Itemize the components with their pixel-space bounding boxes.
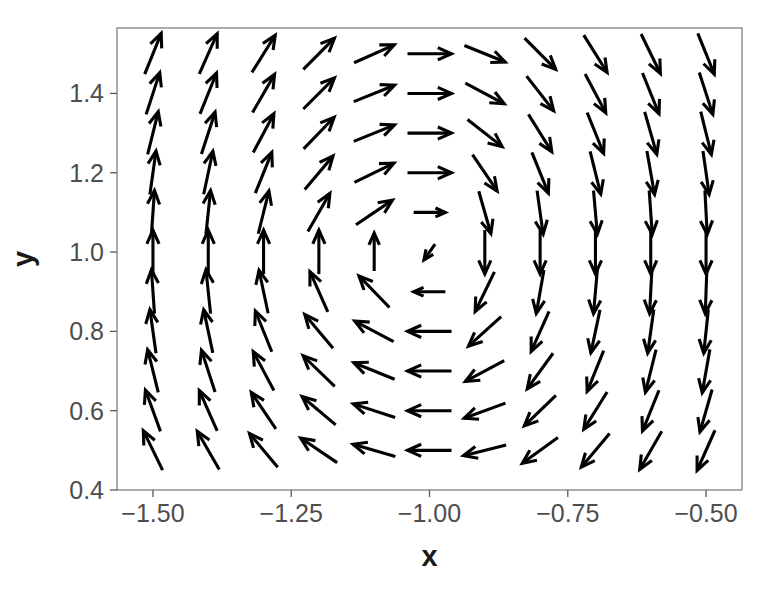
y-tick-label: 1.4 (69, 79, 104, 107)
y-tick-label: 0.6 (69, 397, 104, 425)
x-tick-label: −1.00 (398, 499, 461, 527)
y-axis-title: y (7, 251, 39, 267)
x-tick-label: −1.50 (121, 499, 184, 527)
x-tick-label: −1.25 (260, 499, 323, 527)
x-tick-label: −0.75 (536, 499, 599, 527)
arrow-shaft (705, 270, 707, 314)
y-axis: 0.40.60.81.01.21.4 (69, 79, 117, 504)
y-tick-label: 1.2 (69, 159, 104, 187)
y-tick-label: 0.8 (69, 317, 104, 345)
x-tick-label: −0.50 (674, 499, 737, 527)
x-axis: −1.50−1.25−1.00−0.75−0.50 (121, 490, 737, 527)
x-axis-title: x (421, 540, 437, 572)
y-tick-label: 1.0 (69, 238, 104, 266)
vector-field-plot: −1.50−1.25−1.00−0.75−0.50 0.40.60.81.01.… (0, 0, 771, 592)
y-tick-label: 0.4 (69, 476, 104, 504)
vector-field-figure: −1.50−1.25−1.00−0.75−0.50 0.40.60.81.01.… (0, 0, 771, 592)
